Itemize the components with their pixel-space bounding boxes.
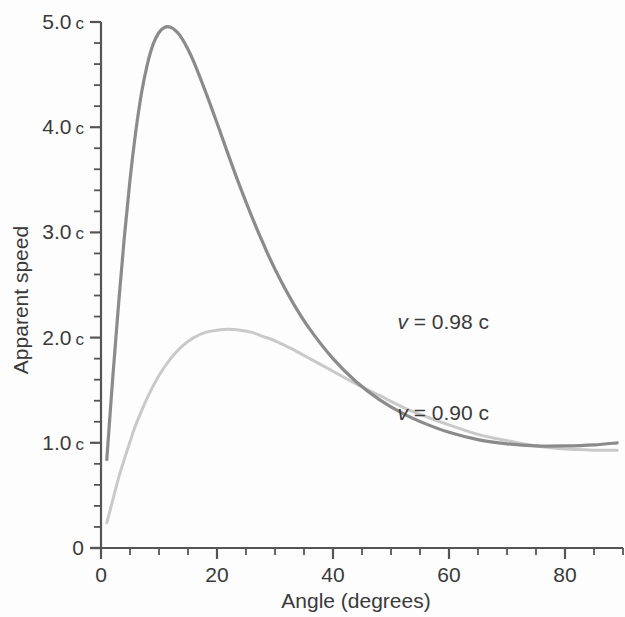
y-axis-tick-label: 4.0c [42, 115, 84, 138]
apparent-speed-vs-angle-chart: 01.0c2.0c3.0c4.0c5.0c 020406080 Apparent… [0, 0, 625, 617]
y-axis-tick-labels: 01.0c2.0c3.0c4.0c5.0c [42, 10, 84, 559]
x-axis-tick-label: 80 [553, 563, 576, 586]
series-line-0-9 [107, 329, 617, 523]
axis-lines [101, 22, 623, 548]
label-090: v = 0.90 c [397, 401, 489, 424]
x-axis-tick-label: 40 [321, 563, 344, 586]
y-axis-tick-label: 2.0c [42, 326, 84, 349]
y-axis-ticks [90, 22, 101, 548]
x-axis-tick-label: 60 [437, 563, 460, 586]
y-axis-tick-label: 5.0c [42, 10, 84, 33]
data-series-group [107, 27, 617, 523]
y-axis-tick-label: 1.0c [42, 431, 84, 454]
series-annotations: v = 0.98 cv = 0.90 c [397, 310, 489, 423]
x-axis-title: Angle (degrees) [281, 589, 430, 612]
chart-figure: 01.0c2.0c3.0c4.0c5.0c 020406080 Apparent… [0, 0, 625, 617]
series-line-0-98 [107, 27, 617, 460]
x-axis-tick-labels: 020406080 [95, 563, 577, 586]
y-axis-tick-label: 0 [72, 536, 84, 559]
x-axis-tick-label: 0 [95, 563, 107, 586]
y-axis-tick-label: 3.0c [42, 220, 84, 243]
x-axis-ticks [101, 548, 623, 559]
y-axis-title: Apparent speed [9, 226, 32, 374]
label-098: v = 0.98 c [397, 310, 489, 333]
x-axis-tick-label: 20 [205, 563, 228, 586]
